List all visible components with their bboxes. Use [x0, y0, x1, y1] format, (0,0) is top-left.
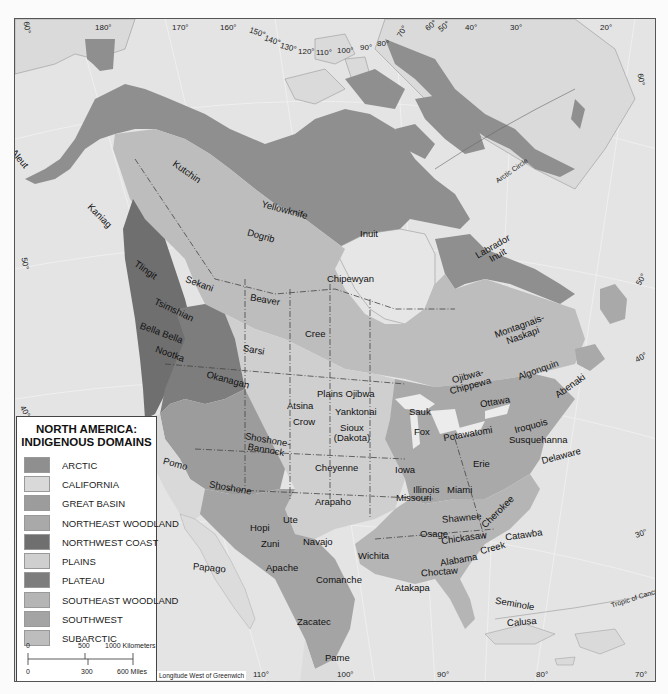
legend-swatch	[24, 572, 50, 588]
degree-label: 20°	[600, 23, 612, 32]
people-label: Yanktonai	[335, 407, 377, 417]
legend-item-northwest-coast: NORTHWEST COAST	[24, 534, 158, 550]
legend-swatch	[24, 553, 50, 569]
legend-label: NORTHEAST WOODLAND	[62, 518, 179, 529]
legend-item-northeast-woodland: NORTHEAST WOODLAND	[24, 515, 179, 531]
legend-label: SOUTHEAST WOODLAND	[62, 595, 178, 606]
people-label: Atakapa	[395, 583, 430, 593]
degree-label: 80°	[536, 670, 548, 679]
people-label: Crow	[293, 417, 315, 427]
legend-label: PLAINS	[62, 556, 96, 567]
legend-title-line1: NORTH AMERICA:	[17, 423, 156, 436]
degree-label: 60°	[636, 73, 647, 86]
people-label: Iowa	[395, 465, 415, 475]
people-label: Miami	[447, 485, 472, 495]
degree-label: 100°	[337, 670, 354, 679]
legend-swatch	[24, 457, 50, 473]
degree-label: 30°	[510, 23, 522, 32]
legend-label: GREAT BASIN	[62, 498, 125, 509]
longitude-note: Longitude West of Greenwich	[157, 671, 246, 680]
legend-swatch	[24, 592, 50, 608]
legend-label: SOUTHWEST	[62, 614, 123, 625]
people-label: Arapaho	[315, 497, 351, 507]
legend-swatch	[24, 495, 50, 511]
legend-item-plateau: PLATEAU	[24, 572, 105, 588]
scale-mile-tick: 0	[26, 668, 30, 675]
degree-label: 120°	[298, 47, 315, 56]
legend-label: CALIFORNIA	[62, 479, 119, 490]
people-label: Chipewyan	[327, 274, 374, 284]
degree-label: 70°	[635, 670, 647, 679]
people-label: Sioux (Dakota)	[331, 423, 373, 442]
legend-item-southeast-woodland: SOUTHEAST WOODLAND	[24, 592, 178, 608]
degree-label: 100°	[337, 46, 354, 55]
degree-label: 110°	[316, 48, 332, 57]
legend-item-arctic: ARCTIC	[24, 457, 97, 473]
map-frame: 60° 180° 170° 160° 150° 140° 130° 120° 1…	[14, 18, 656, 682]
degree-label: 90°	[360, 43, 372, 52]
legend-swatch	[24, 534, 50, 550]
people-label: Calusa	[507, 616, 537, 628]
people-label: Comanche	[316, 575, 362, 585]
legend-item-plains: PLAINS	[24, 553, 96, 569]
people-label: Fox	[414, 427, 430, 437]
scale-line	[25, 652, 145, 666]
scale-mile-tick: 600 Miles	[117, 668, 147, 675]
scale-bar: 0 500 1000 Kilometers 0 300 600 Miles	[25, 642, 150, 682]
legend-title: NORTH AMERICA: INDIGENOUS DOMAINS	[17, 423, 156, 449]
people-label: Atsina	[287, 401, 313, 411]
scale-km-tick: 0	[26, 642, 30, 649]
degree-label: 180°	[95, 23, 112, 32]
people-label: Papago	[193, 562, 226, 574]
people-label: Cheyenne	[315, 463, 358, 473]
degree-label: 50°	[20, 257, 31, 270]
map-legend: NORTH AMERICA: INDIGENOUS DOMAINS ARCTIC…	[16, 416, 157, 682]
people-label: Missouri	[396, 493, 431, 503]
scale-mile-tick: 300	[81, 668, 93, 675]
people-label: Susquehanna	[509, 435, 541, 445]
people-label: Pame	[325, 653, 350, 663]
people-label: Sauk	[409, 407, 431, 417]
people-label: Wichita	[358, 551, 389, 561]
degree-label: 110°	[253, 670, 269, 679]
people-label: Inuit	[360, 229, 378, 239]
legend-label: NORTHWEST COAST	[62, 537, 158, 548]
degree-label: 80°	[377, 39, 389, 48]
legend-item-southwest: SOUTHWEST	[24, 611, 123, 627]
people-label: Zacatec	[297, 617, 331, 627]
legend-title-line2: INDIGENOUS DOMAINS	[17, 436, 156, 449]
people-label: Cree	[305, 329, 326, 339]
people-label: Plains Ojibwa	[317, 389, 375, 399]
legend-item-great-basin: GREAT BASIN	[24, 495, 125, 511]
degree-label: 90°	[437, 670, 449, 679]
degree-label: 170°	[172, 23, 189, 32]
people-label: Erie	[473, 459, 490, 469]
legend-swatch	[24, 515, 50, 531]
people-label: Hopi	[250, 523, 270, 533]
people-label: Ute	[283, 515, 298, 525]
legend-label: PLATEAU	[62, 575, 105, 586]
legend-swatch	[24, 611, 50, 627]
scale-km-tick: 500	[78, 642, 90, 649]
degree-label: 60°	[22, 21, 33, 34]
legend-swatch	[24, 476, 50, 492]
people-label: Apache	[266, 563, 298, 573]
people-label: Zuni	[261, 539, 279, 549]
legend-label: ARCTIC	[62, 460, 97, 471]
people-label: Navajo	[303, 537, 333, 547]
scale-km-tick: 1000 Kilometers	[105, 642, 156, 649]
legend-item-california: CALIFORNIA	[24, 476, 119, 492]
degree-label: 160°	[220, 23, 237, 32]
degree-label: 40°	[465, 23, 477, 32]
